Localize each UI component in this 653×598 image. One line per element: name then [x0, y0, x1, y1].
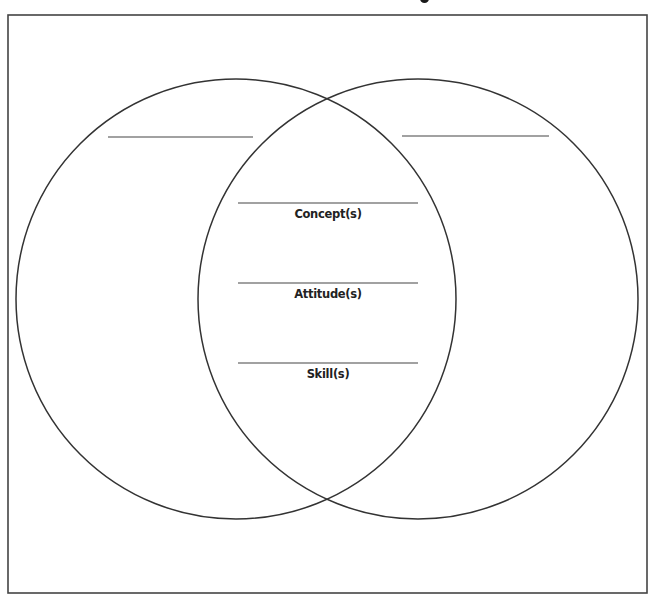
outer-frame	[8, 15, 647, 593]
concepts-label: Concept(s)	[238, 207, 418, 221]
skills-label: Skill(s)	[238, 367, 418, 381]
attitudes-label: Attitude(s)	[238, 287, 418, 301]
